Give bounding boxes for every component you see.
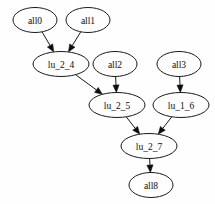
node-label-all8: all8 <box>144 181 158 191</box>
node-label-all0: all0 <box>28 16 42 26</box>
node-label-lu_1_6: lu_1_6 <box>168 101 195 111</box>
arrowhead-all0-to-lu_2_4 <box>47 44 53 52</box>
graph-node-all1[interactable]: all1 <box>66 8 110 33</box>
node-label-all3: all3 <box>172 60 186 70</box>
node-label-lu_2_4: lu_2_4 <box>48 60 75 70</box>
arrowhead-lu_1_6-to-lu_2_7 <box>158 126 165 134</box>
edge-all1-to-lu_2_4 <box>72 32 80 46</box>
graph-node-all2[interactable]: all2 <box>93 52 137 77</box>
graph-node-all3[interactable]: all3 <box>157 52 201 77</box>
arrowhead-lu_2_4-to-lu_2_5 <box>95 87 103 94</box>
arrowhead-all3-to-lu_1_6 <box>177 85 183 93</box>
node-label-lu_2_7: lu_2_7 <box>136 142 163 152</box>
graph-node-lu_2_4[interactable]: lu_2_4 <box>33 52 89 77</box>
graph-node-lu_2_7[interactable]: lu_2_7 <box>121 134 177 159</box>
edge-lu_2_4-to-lu_2_5 <box>76 75 97 90</box>
graph-node-all8[interactable]: all8 <box>129 173 173 198</box>
edge-lu_1_6-to-lu_2_7 <box>163 117 172 128</box>
arrowhead-all1-to-lu_2_4 <box>68 44 75 52</box>
arrowhead-lu_2_5-to-lu_2_7 <box>133 126 140 134</box>
node-label-all1: all1 <box>81 16 95 26</box>
graph-node-all0[interactable]: all0 <box>13 8 57 33</box>
graph-node-lu_2_5[interactable]: lu_2_5 <box>89 93 145 118</box>
node-label-lu_2_5: lu_2_5 <box>104 101 131 111</box>
arrowhead-lu_2_7-to-all8 <box>147 165 153 173</box>
arrowhead-all2-to-lu_2_5 <box>113 85 119 93</box>
edge-all0-to-lu_2_4 <box>42 32 50 46</box>
graph-node-lu_1_6[interactable]: lu_1_6 <box>153 93 209 118</box>
graph-canvas: all0all1lu_2_4all2all3lu_2_5lu_1_6lu_2_7… <box>0 0 215 204</box>
node-label-all2: all2 <box>108 60 122 70</box>
edge-lu_2_5-to-lu_2_7 <box>126 117 135 128</box>
nodes-layer: all0all1lu_2_4all2all3lu_2_5lu_1_6lu_2_7… <box>13 8 209 198</box>
graph-diagram: all0all1lu_2_4all2all3lu_2_5lu_1_6lu_2_7… <box>0 0 215 204</box>
